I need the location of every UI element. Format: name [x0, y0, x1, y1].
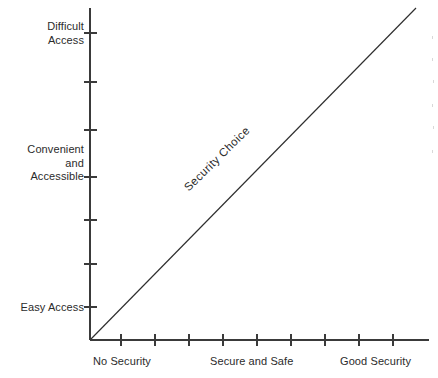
scan-artifact [433, 80, 434, 83]
scan-artifact [432, 58, 433, 61]
chart-container: Difficult Access Convenient and Accessib… [0, 0, 438, 378]
scan-artifact [432, 36, 433, 39]
y-tick-label-convenient-accessible: Convenient and Accessible [6, 143, 84, 184]
x-tick-label-secure-and-safe: Secure and Safe [210, 355, 293, 368]
scan-artifact [432, 104, 433, 107]
y-tick-label-difficult-access: Difficult Access [6, 20, 84, 47]
chart-plot-area [0, 0, 438, 378]
scan-artifact [433, 126, 434, 129]
y-tick-label-easy-access: Easy Access [6, 301, 84, 315]
x-tick-label-good-security: Good Security [340, 355, 411, 368]
scan-artifact [432, 150, 433, 153]
series-line-security-choice [91, 8, 416, 339]
x-tick-label-no-security: No Security [93, 355, 151, 368]
